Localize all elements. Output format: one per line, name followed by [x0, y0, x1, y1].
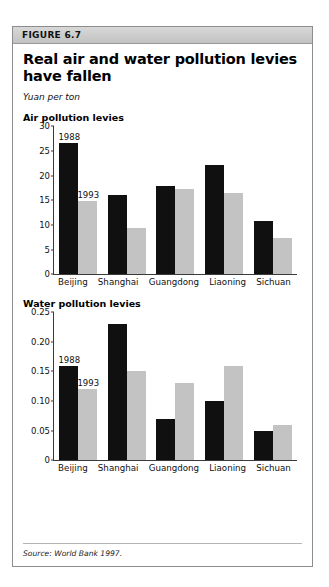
water-bar-group [254, 312, 292, 460]
water-bar-1993 [175, 383, 194, 460]
air-pollution-chart: 19881993 051015202530 BeijingShanghaiGua… [23, 126, 303, 287]
figure-frame: FIGURE 6.7 Real air and water pollution … [12, 26, 313, 567]
water-bar-1993 [224, 366, 243, 461]
water-bar-1988 [254, 431, 273, 461]
water-y-tick-mark [51, 460, 54, 461]
water-bar-group: 19881993 [59, 312, 97, 460]
figure-header: FIGURE 6.7 [13, 27, 312, 44]
water-y-tick-mark [51, 312, 54, 313]
air-y-tick-mark [51, 175, 54, 176]
air-chart-title: Air pollution levies [23, 112, 302, 123]
source-divider [23, 543, 302, 544]
water-bar-1988 [108, 324, 127, 460]
water-x-label-liaoning: Liaoning [209, 463, 246, 473]
water-bar-1993: 1993 [78, 389, 97, 460]
water-y-tick-mark [51, 371, 54, 372]
air-y-tick-label: 30 [39, 121, 50, 131]
air-y-tick-label: 10 [39, 220, 50, 230]
air-chart-bar-groups: 19881993 [54, 126, 297, 274]
water-bar-group [156, 312, 194, 460]
water-y-tick-mark [51, 401, 54, 402]
figure-number-label: FIGURE 6.7 [22, 30, 81, 40]
water-bar-1988 [205, 401, 224, 460]
air-bar-1993 [273, 238, 292, 274]
air-bar-1993 [127, 228, 146, 274]
air-bar-group: 19881993 [59, 126, 97, 274]
air-bar-group [156, 126, 194, 274]
water-bar-1993 [273, 425, 292, 461]
water-bar-1988 [156, 419, 175, 460]
air-y-tick-label: 15 [39, 195, 50, 205]
water-x-label-beijing: Beijing [58, 463, 88, 473]
air-bar-1988 [205, 165, 224, 275]
air-chart-plot-area: 19881993 051015202530 [53, 126, 297, 275]
air-y-tick-mark [51, 224, 54, 225]
figure-source-note: Source: World Bank 1997. [23, 549, 122, 558]
water-y-tick-label: 0.05 [31, 426, 50, 436]
water-series-annotation-1993: 1993 [77, 378, 99, 388]
air-y-tick-label: 20 [39, 171, 50, 181]
air-x-label-beijing: Beijing [58, 277, 88, 287]
air-y-tick-label: 5 [45, 245, 50, 255]
water-x-label-shanghai: Shanghai [98, 463, 139, 473]
air-x-label-shanghai: Shanghai [98, 277, 139, 287]
water-bar-group [205, 312, 243, 460]
air-bar-1988: 1988 [59, 143, 78, 275]
water-bar-group [108, 312, 146, 460]
water-x-label-sichuan: Sichuan [256, 463, 291, 473]
air-bar-1988 [254, 221, 273, 274]
water-bar-1988: 1988 [59, 366, 78, 461]
air-bar-1988 [108, 195, 127, 274]
air-bar-group [254, 126, 292, 274]
air-bar-group [108, 126, 146, 274]
air-y-tick-mark [51, 200, 54, 201]
air-bar-group [205, 126, 243, 274]
air-chart-x-axis-labels: BeijingShanghaiGuangdongLiaoningSichuan [53, 277, 296, 287]
figure-title: Real air and water pollution levies have… [23, 51, 302, 85]
air-x-label-liaoning: Liaoning [209, 277, 246, 287]
water-x-label-guangdong: Guangdong [149, 463, 199, 473]
water-y-tick-mark [51, 341, 54, 342]
air-bar-1993: 1993 [78, 201, 97, 274]
air-x-label-guangdong: Guangdong [149, 277, 199, 287]
water-chart-plot-area: 19881993 00.050.100.150.200.25 [53, 312, 297, 461]
water-chart-x-axis-labels: BeijingShanghaiGuangdongLiaoningSichuan [53, 463, 296, 473]
air-y-tick-mark [51, 249, 54, 250]
water-chart-bar-groups: 19881993 [54, 312, 297, 460]
water-y-tick-label: 0.10 [31, 396, 50, 406]
figure-body: Real air and water pollution levies have… [13, 44, 312, 565]
figure-units-label: Yuan per ton [23, 92, 302, 102]
air-bar-1993 [175, 189, 194, 274]
air-y-tick-mark [51, 126, 54, 127]
water-y-tick-label: 0 [45, 455, 50, 465]
air-y-tick-mark [51, 150, 54, 151]
air-y-tick-mark [51, 274, 54, 275]
air-x-label-sichuan: Sichuan [256, 277, 291, 287]
water-series-annotation-1988: 1988 [58, 355, 80, 365]
air-series-annotation-1988: 1988 [58, 132, 80, 142]
water-y-tick-mark [51, 430, 54, 431]
air-y-tick-label: 0 [45, 269, 50, 279]
air-y-tick-label: 25 [39, 146, 50, 156]
air-series-annotation-1993: 1993 [77, 190, 99, 200]
water-y-tick-label: 0.25 [31, 307, 50, 317]
air-bar-1988 [156, 186, 175, 274]
air-bar-1993 [224, 193, 243, 274]
water-bar-1993 [127, 371, 146, 460]
water-pollution-chart: 19881993 00.050.100.150.200.25 BeijingSh… [23, 312, 303, 473]
water-y-tick-label: 0.20 [31, 337, 50, 347]
water-y-tick-label: 0.15 [31, 366, 50, 376]
water-chart-title: Water pollution levies [23, 298, 302, 309]
